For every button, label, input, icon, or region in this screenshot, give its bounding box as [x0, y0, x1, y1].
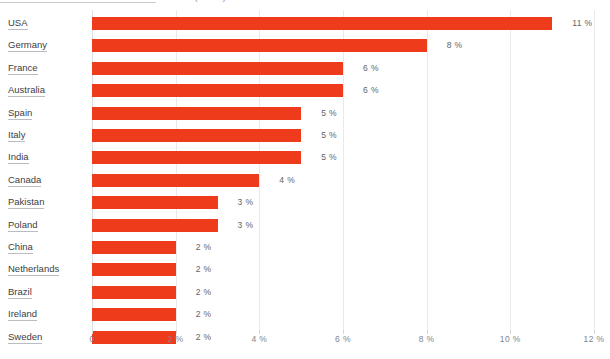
category-label-germany[interactable]: Germany	[8, 39, 47, 52]
x-tick-label-10: 10 %	[500, 334, 521, 344]
bar-value-australia: 6 %	[363, 85, 379, 95]
bar-netherlands[interactable]	[92, 263, 176, 276]
bar-value-germany: 8 %	[447, 40, 463, 50]
bar-row: Pakistan3 %	[0, 193, 610, 215]
bar-poland[interactable]	[92, 219, 218, 232]
bar-value-poland: 3 %	[238, 220, 254, 230]
bar-value-canada: 4 %	[279, 175, 295, 185]
category-label-netherlands[interactable]: Netherlands	[8, 263, 59, 276]
bar-value-spain: 5 %	[321, 108, 337, 118]
x-tick-label-8: 8 %	[419, 334, 435, 344]
bar-value-france: 6 %	[363, 63, 379, 73]
x-tick-label-0: 0	[89, 334, 94, 344]
bar-value-brazil: 2 %	[196, 287, 212, 297]
bar-row: Italy5 %	[0, 126, 610, 148]
category-label-australia[interactable]: Australia	[8, 84, 45, 97]
bar-row: Spain5 %	[0, 104, 610, 126]
chart-title-underline	[0, 2, 156, 3]
x-axis: 02 %4 %6 %8 %10 %12 %	[0, 334, 610, 354]
x-tick-label-6: 6 %	[335, 334, 351, 344]
bar-row: India5 %	[0, 148, 610, 170]
bar-india[interactable]	[92, 151, 301, 164]
bar-value-usa: 11 %	[572, 18, 592, 28]
bar-row: Netherlands2 %	[0, 260, 610, 282]
category-label-ireland[interactable]: Ireland	[8, 308, 37, 321]
bar-row: Germany8 %	[0, 36, 610, 58]
category-label-italy[interactable]: Italy	[8, 129, 25, 142]
bar-value-netherlands: 2 %	[196, 264, 212, 274]
category-label-spain[interactable]: Spain	[8, 107, 32, 120]
category-label-usa[interactable]: USA	[8, 17, 28, 30]
bar-usa[interactable]	[92, 17, 552, 30]
bar-value-pakistan: 3 %	[238, 197, 254, 207]
bar-value-india: 5 %	[321, 152, 337, 162]
bar-ireland[interactable]	[92, 308, 176, 321]
bar-france[interactable]	[92, 62, 343, 75]
bar-row: Poland3 %	[0, 216, 610, 238]
bar-italy[interactable]	[92, 129, 301, 142]
bar-row: France6 %	[0, 59, 610, 81]
bar-pakistan[interactable]	[92, 196, 218, 209]
bar-brazil[interactable]	[92, 286, 176, 299]
category-label-poland[interactable]: Poland	[8, 219, 38, 232]
category-label-india[interactable]: India	[8, 151, 29, 164]
x-tick-label-2: 2 %	[168, 334, 184, 344]
chart-screenshot: London tourists - main home countries (2…	[0, 0, 610, 359]
bar-row: Canada4 %	[0, 171, 610, 193]
bar-china[interactable]	[92, 241, 176, 254]
category-label-pakistan[interactable]: Pakistan	[8, 196, 44, 209]
bar-value-ireland: 2 %	[196, 309, 212, 319]
bar-australia[interactable]	[92, 84, 343, 97]
category-label-brazil[interactable]: Brazil	[8, 286, 32, 299]
bar-value-italy: 5 %	[321, 130, 337, 140]
bar-row: Australia6 %	[0, 81, 610, 103]
bar-row: Brazil2 %	[0, 283, 610, 305]
bar-row: USA11 %	[0, 14, 610, 36]
x-tick-label-12: 12 %	[584, 334, 605, 344]
bar-spain[interactable]	[92, 107, 301, 120]
bar-canada[interactable]	[92, 174, 259, 187]
category-label-china[interactable]: China	[8, 241, 33, 254]
bar-germany[interactable]	[92, 39, 427, 52]
category-label-canada[interactable]: Canada	[8, 174, 41, 187]
x-tick-label-4: 4 %	[251, 334, 267, 344]
bar-row: China2 %	[0, 238, 610, 260]
bar-value-china: 2 %	[196, 242, 212, 252]
category-label-france[interactable]: France	[8, 62, 38, 75]
bar-row: Ireland2 %	[0, 305, 610, 327]
